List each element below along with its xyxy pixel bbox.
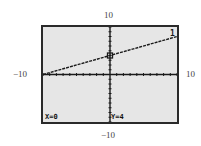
xmax-label: 10 [186, 69, 195, 79]
ymin-label: −10 [101, 130, 115, 140]
equation-number-label: 1 [170, 29, 175, 38]
calculator-screen: 1 X=0 Y=4 [41, 25, 179, 124]
xmin-label: −10 [13, 69, 27, 79]
trace-y-readout: Y=4 [111, 113, 124, 121]
graph-plot: 1 [43, 27, 177, 122]
trace-x-readout: X=0 [45, 113, 58, 121]
ymax-label: 10 [104, 10, 113, 20]
